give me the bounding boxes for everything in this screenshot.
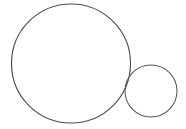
figure-canvas [0,0,186,129]
canvas-background [0,0,186,129]
circles-vector-group [0,0,186,129]
